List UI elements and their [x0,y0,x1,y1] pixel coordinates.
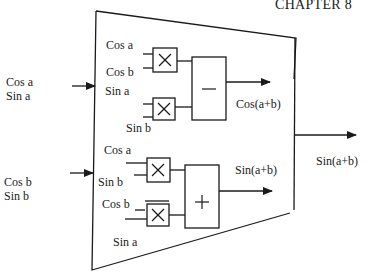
input-label-cos-b: Cos b [4,176,32,188]
cos-mult1-input-2: Cos b [106,66,134,78]
sin-mult1-input-1: Cos a [104,144,131,156]
block-output-label: Sin(a+b) [316,155,358,167]
input-label-sin-b: Sin b [4,190,29,202]
cos-mult2-input-2: Sin b [126,122,151,134]
cos-mult1-input-1: Cos a [106,39,133,51]
input-label-cos-a: Cos a [6,76,33,88]
sin-mult2-input-1: Cos b [102,198,130,210]
sin-mult2-input-2: Sin a [113,236,137,248]
cos-mult2-input-1: Sin a [105,85,129,97]
sin-output-label: Sin(a+b) [235,164,277,176]
input-label-sin-a: Sin a [6,90,30,102]
cos-output-label: Cos(a+b) [236,98,281,110]
chapter-header: CHAPTER 8 [275,0,352,12]
diagram-canvas [0,0,366,275]
sin-mult1-input-2: Sin b [98,176,123,188]
